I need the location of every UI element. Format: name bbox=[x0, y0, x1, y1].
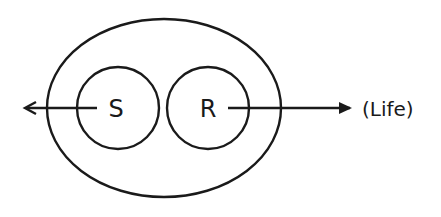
arrow-left-from-s bbox=[25, 102, 97, 114]
sr-diagram: S R (Life) bbox=[0, 0, 441, 217]
arrow-right-from-r bbox=[228, 102, 352, 114]
arrowhead-right-icon bbox=[339, 102, 352, 114]
life-annotation: (Life) bbox=[362, 97, 414, 121]
label-r: R bbox=[200, 95, 217, 123]
label-s: S bbox=[108, 95, 123, 123]
